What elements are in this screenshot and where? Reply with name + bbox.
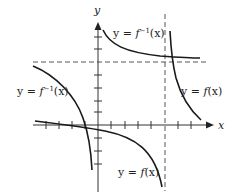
label-f-bottom: y = f(x) xyxy=(117,166,159,179)
curve-finv-left-branch xyxy=(33,66,92,170)
x-axis xyxy=(33,121,214,129)
label-finv-left: y = f−1(x) xyxy=(16,85,69,98)
y-axis-arrow-icon xyxy=(95,22,102,30)
y-axis xyxy=(94,22,102,192)
label-finv-top: y = f−1(x) xyxy=(112,27,165,40)
curve-f-right-branch xyxy=(170,31,201,120)
x-axis-arrow-icon xyxy=(206,122,214,129)
graph-canvas: y x y = f−1(x) y = f−1(x) y = f(x) y = f… xyxy=(0,0,232,193)
label-f-right: y = f(x) xyxy=(180,85,222,98)
x-axis-label: x xyxy=(218,119,225,132)
y-axis-label: y xyxy=(93,4,101,17)
